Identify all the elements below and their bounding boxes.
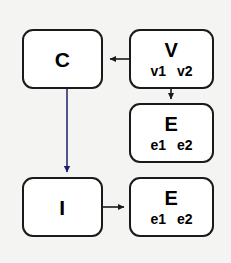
node-e-bottom-sublabel-1: e1 bbox=[150, 212, 166, 226]
node-v-sublabels: v1 v2 bbox=[150, 64, 192, 78]
node-e-middle-sublabel-2: e2 bbox=[177, 138, 193, 152]
node-e-bottom-sublabels: e1 e2 bbox=[150, 212, 192, 226]
node-e-bottom-sublabel-2: e2 bbox=[177, 212, 193, 226]
node-c[interactable]: C bbox=[22, 29, 103, 89]
node-i-label: I bbox=[59, 197, 65, 218]
node-e-middle[interactable]: E e1 e2 bbox=[129, 103, 214, 163]
node-e-middle-sublabel-1: e1 bbox=[150, 138, 166, 152]
node-i[interactable]: I bbox=[22, 177, 103, 237]
node-v-sublabel-2: v2 bbox=[177, 64, 193, 78]
node-v-sublabel-1: v1 bbox=[150, 64, 166, 78]
node-e-bottom-label: E bbox=[165, 188, 179, 208]
node-e-bottom[interactable]: E e1 e2 bbox=[129, 177, 214, 237]
diagram-canvas: C V v1 v2 E e1 e2 I E e1 e2 bbox=[0, 0, 231, 263]
node-e-middle-label: E bbox=[165, 114, 179, 134]
node-c-label: C bbox=[55, 49, 71, 70]
node-v-label: V bbox=[165, 40, 179, 60]
node-v[interactable]: V v1 v2 bbox=[129, 29, 214, 89]
node-e-middle-sublabels: e1 e2 bbox=[150, 138, 192, 152]
